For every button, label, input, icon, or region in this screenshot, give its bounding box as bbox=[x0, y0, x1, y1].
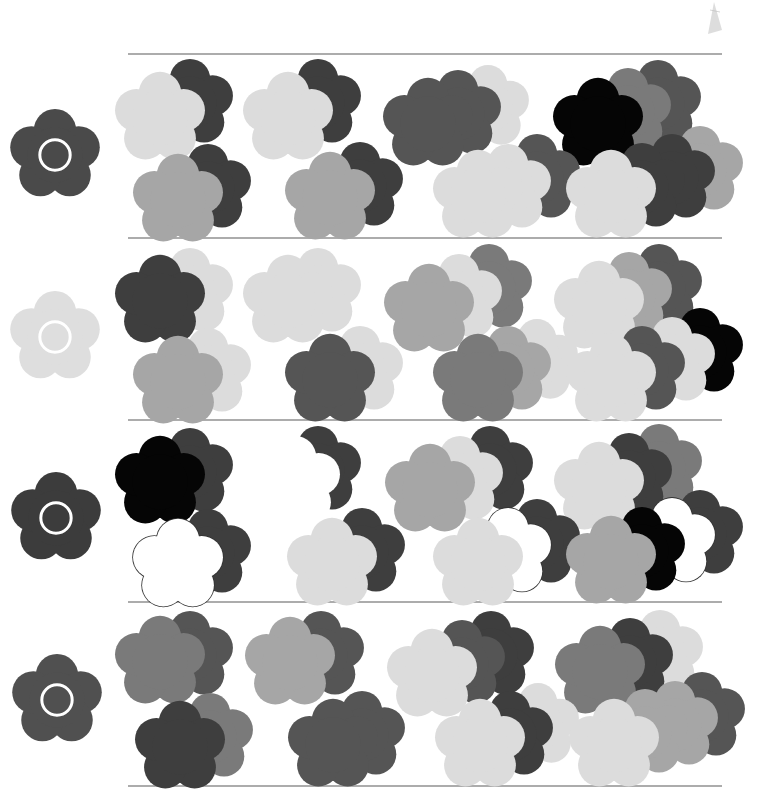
worksheet-row-2 bbox=[10, 244, 743, 424]
worksheet-row-3 bbox=[11, 424, 743, 607]
page-corner-mark-icon bbox=[700, 0, 730, 38]
target-flower-icon bbox=[11, 472, 101, 559]
flower-group[interactable] bbox=[250, 426, 361, 524]
flower-group[interactable] bbox=[135, 693, 253, 789]
flower-group[interactable] bbox=[245, 611, 364, 705]
flower-group[interactable] bbox=[132, 509, 251, 607]
worksheet-page bbox=[0, 0, 760, 802]
worksheet-row-4 bbox=[12, 610, 745, 789]
flower-group[interactable] bbox=[243, 59, 361, 160]
flower-group[interactable] bbox=[115, 611, 233, 704]
target-flower-icon bbox=[10, 109, 100, 196]
flower-group[interactable] bbox=[115, 248, 233, 343]
flower-group[interactable] bbox=[288, 691, 405, 787]
worksheet-row-1 bbox=[10, 59, 743, 242]
flower-group[interactable] bbox=[115, 428, 233, 524]
flower-group[interactable] bbox=[243, 248, 361, 343]
flower-group[interactable] bbox=[115, 59, 233, 160]
target-flower-icon bbox=[10, 291, 100, 378]
flower-matching-worksheet bbox=[0, 0, 760, 802]
target-flower-icon bbox=[12, 654, 102, 741]
flower-group[interactable] bbox=[133, 328, 251, 424]
